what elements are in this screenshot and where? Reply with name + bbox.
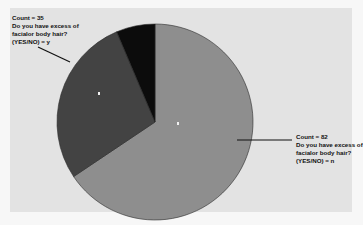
label-yes-question-1: Do you have excess of xyxy=(12,22,79,30)
label-yes-answer: (YES/NO) = y xyxy=(12,38,79,46)
label-no-question-2: facialor body hair? xyxy=(296,149,363,157)
label-yes-count: Count = 35 xyxy=(12,14,79,22)
slice-label-no-marker xyxy=(177,122,179,125)
label-no-question-1: Do you have excess of xyxy=(296,141,363,149)
label-no: Count = 82 Do you have excess of facialo… xyxy=(296,133,363,165)
label-yes-question-2: facialor body hair? xyxy=(12,30,79,38)
slice-label-yes-marker xyxy=(98,92,100,95)
label-yes: Count = 35 Do you have excess of facialo… xyxy=(12,14,79,46)
leader-line-yes xyxy=(38,47,70,62)
label-no-answer: (YES/NO) = n xyxy=(296,157,363,165)
label-no-count: Count = 82 xyxy=(296,133,363,141)
